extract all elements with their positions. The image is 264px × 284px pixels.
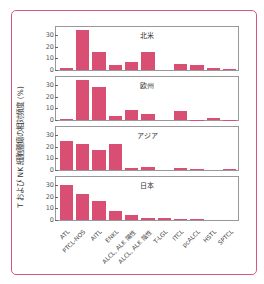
bar [207,118,220,120]
bar [92,201,105,220]
bar [207,68,220,70]
y-tick-label: 20 [38,194,54,200]
bar [60,68,73,70]
bar [92,150,105,171]
y-tick-label: 20 [38,94,54,100]
bar [174,168,187,170]
y-tick-label: 0 [38,217,54,223]
y-tick-label: 30 [38,182,54,188]
y-tick-label: 30 [38,82,54,88]
y-tick-label: 0 [38,167,54,173]
bar [109,116,122,120]
bar [141,218,154,220]
bar [76,30,89,70]
bar [60,141,73,170]
panel-3: アジア0102030 [55,126,239,171]
bar [190,169,203,170]
bar [174,64,187,70]
y-tick-label: 10 [38,55,54,61]
bar [125,168,138,170]
y-tick-label: 30 [38,32,54,38]
bar [141,52,154,70]
bar [76,80,89,120]
y-tick-label: 30 [38,132,54,138]
bar [190,219,203,220]
bar [174,219,187,220]
bar [158,218,171,220]
bar [141,114,154,120]
bar [92,87,105,120]
bar [190,65,203,70]
bar [141,167,154,170]
y-tick-label: 0 [38,117,54,123]
bar [223,69,236,70]
bar [109,144,122,170]
bar [92,52,105,70]
bar [60,185,73,220]
bar [76,144,89,170]
y-tick-label: 10 [38,205,54,211]
y-axis-label: T および NK 細胞腫瘍の相対頻度 (%) [14,72,26,222]
y-tick-label: 10 [38,105,54,111]
y-tick-label: 0 [38,67,54,73]
y-tick-label: 10 [38,155,54,161]
bar [125,62,138,70]
panel-1: 北米0102030 [55,26,239,71]
y-tick-label: 20 [38,44,54,50]
bar [109,211,122,220]
bar [174,111,187,120]
panel-2: 欧州0102030 [55,76,239,121]
panel-title: アジア [56,130,238,140]
bar [125,110,138,120]
bar [125,215,138,220]
bar [76,194,89,220]
bar [60,119,73,120]
y-tick-label: 20 [38,144,54,150]
panel-4: 日本0102030 [55,176,239,221]
bar [109,65,122,70]
panel-title: 日本 [56,180,238,190]
bar [223,169,236,170]
